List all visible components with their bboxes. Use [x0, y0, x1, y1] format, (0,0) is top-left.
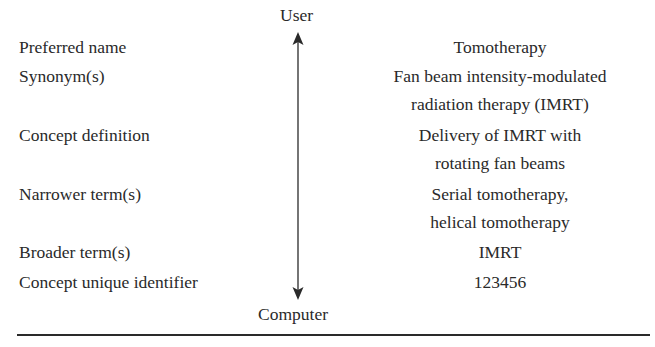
row-label-synonyms: Synonym(s): [19, 66, 105, 86]
row-label-preferred-name: Preferred name: [19, 37, 126, 57]
row-value-narrower-terms-line1: Serial tomotherapy,: [360, 184, 640, 204]
row-label-narrower-terms: Narrower term(s): [19, 184, 141, 204]
row-value-broader-terms: IMRT: [360, 242, 640, 262]
row-value-narrower-terms-line2: helical tomotherapy: [360, 212, 640, 232]
row-value-preferred-name: Tomotherapy: [360, 37, 640, 57]
row-value-concept-definition-line1: Delivery of IMRT with: [360, 125, 640, 145]
row-value-concept-definition-line2: rotating fan beams: [360, 153, 640, 173]
axis-bottom-label: Computer: [258, 304, 328, 324]
row-value-synonyms-line2: radiation therapy (IMRT): [360, 94, 640, 114]
row-value-synonyms-line1: Fan beam intensity-modulated: [360, 66, 640, 86]
row-label-concept-unique-identifier: Concept unique identifier: [19, 272, 198, 292]
bottom-rule-divider: [17, 334, 650, 336]
row-value-concept-unique-identifier: 123456: [360, 272, 640, 292]
double-headed-arrow-icon: [288, 30, 308, 302]
axis-top-label: User: [280, 5, 313, 25]
row-label-broader-terms: Broader term(s): [19, 242, 130, 262]
row-label-concept-definition: Concept definition: [19, 125, 150, 145]
